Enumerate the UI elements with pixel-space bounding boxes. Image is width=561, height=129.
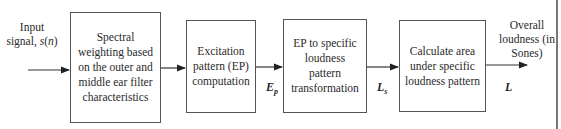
signal-symbol: E: [266, 80, 274, 94]
signal-symbol: L: [505, 80, 512, 94]
input-var: s: [40, 35, 44, 47]
block-text: under specific: [405, 59, 480, 74]
output-label-line: loudness (in: [499, 33, 555, 45]
block-text: on the outer and: [78, 60, 153, 75]
block-text: transformation: [291, 81, 359, 96]
block-text: Calculate area: [405, 44, 480, 59]
output-label: Overall loudness (in Sones): [494, 18, 560, 60]
block-text: EP to specific: [291, 36, 359, 51]
signal-ls: Ls: [377, 80, 387, 96]
block-text: Excitation: [192, 44, 250, 59]
output-label-line: Sones): [511, 47, 542, 59]
input-var-arg: n: [48, 35, 54, 47]
page-border-line: [556, 0, 558, 129]
input-label-line1: Input: [20, 21, 44, 33]
input-label-line2: signal,: [6, 35, 39, 47]
block-text: pattern (EP): [192, 59, 250, 74]
signal-l: L: [505, 80, 512, 95]
block-text: computation: [192, 74, 250, 89]
block-text: characteristics: [78, 90, 153, 105]
block-text: Spectral: [78, 30, 153, 45]
signal-subscript: p: [274, 87, 278, 96]
block-ep-to-specific-loudness: EP to specific loudness pattern transfor…: [283, 19, 367, 113]
block-text: loudness: [291, 51, 359, 66]
block-excitation-pattern: Excitation pattern (EP) computation: [186, 20, 256, 113]
input-label: Input signal, s(n): [2, 20, 62, 48]
block-text: pattern: [291, 66, 359, 81]
output-label-line: Overall: [510, 19, 544, 31]
block-spectral-weighting: Spectral weighting based on the outer an…: [70, 12, 161, 123]
signal-subscript: s: [384, 87, 387, 96]
block-text: loudness pattern: [405, 74, 480, 89]
block-text: weighting based: [78, 45, 153, 60]
signal-ep: Ep: [266, 80, 278, 96]
block-text: middle ear filter: [78, 75, 153, 90]
block-calculate-area: Calculate area under specific loudness p…: [399, 20, 486, 112]
